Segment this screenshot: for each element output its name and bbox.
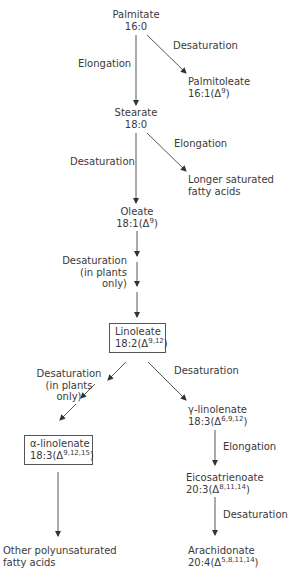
formula-prefix: 18:2(Δ [115,338,148,349]
formula-prefix: 20:3(Δ [186,484,219,495]
formula-prefix: 20:4(Δ [188,557,221,568]
edge-label-linoleate-alpha: Desaturation (in plants only) [36,368,102,403]
linoleate-formula: 18:2(Δ9,12) [115,338,160,350]
arrow-linoleate-alpha-3 [60,404,76,420]
edge-label-line2: (in plants [36,380,102,392]
formula-sup: 8,11,14 [219,483,246,491]
formula-prefix: 18:1(Δ [116,218,149,229]
other-polyunsaturated-line1: Other polyunsaturated [3,545,117,557]
edge-label-palmitate-stearate: Elongation [78,58,131,70]
edge-label-line3: only) [36,391,102,403]
formula-prefix: 16:1(Δ [188,88,221,99]
longer-saturated-line2: fatty acids [188,186,274,198]
node-stearate: Stearate 18:0 [106,107,166,131]
formula-prefix: 18:3(Δ [188,416,221,427]
eicosatrienoate-formula: 20:3(Δ8,11,14) [186,484,264,496]
edge-label-line1: Desaturation [36,368,102,380]
palmitoleate-name: Palmitoleate [188,76,250,88]
node-linoleate: Linoleate 18:2(Δ9,12) [109,323,166,353]
edge-label-linoleate-gamma: Desaturation [174,365,239,377]
stearate-name: Stearate [106,107,166,119]
formula-suffix: ) [246,484,250,495]
palmitate-name: Palmitate [106,9,166,21]
formula-sup: 9,12 [148,337,164,345]
edge-label-line1: Desaturation [62,255,127,267]
formula-suffix: ) [255,557,259,568]
arrow-linoleate-alpha-1 [108,362,126,380]
alpha-linolenate-formula: 18:3(Δ9,12,15) [30,450,87,462]
edge-label-palmitate-palmitoleate: Desaturation [173,40,238,52]
gamma-linolenate-formula: 18:3(Δ6,9,12) [188,416,247,428]
edge-label-stearate-longer: Elongation [174,138,227,150]
formula-suffix: ) [164,338,168,349]
palmitate-formula: 16:0 [106,21,166,33]
node-gamma-linolenate: γ-linolenate 18:3(Δ6,9,12) [188,404,247,428]
formula-suffix: ) [226,88,230,99]
formula-prefix: 18:3(Δ [30,450,63,461]
node-eicosatrienoate: Eicosatrienoate 20:3(Δ8,11,14) [186,472,264,496]
oleate-formula: 18:1(Δ9) [106,218,168,230]
node-palmitate: Palmitate 16:0 [106,9,166,33]
node-oleate: Oleate 18:1(Δ9) [106,206,168,230]
formula-sup: 6,9,12 [221,415,243,423]
palmitoleate-formula: 16:1(Δ9) [188,88,250,100]
edge-label-line3: only) [62,278,127,290]
formula-suffix: ) [243,416,247,427]
edge-label-line2: (in plants [62,267,127,279]
node-alpha-linolenate: α-linolenate 18:3(Δ9,12,15) [24,435,93,465]
longer-saturated-line1: Longer saturated [188,174,274,186]
edge-label-eicosatrienoate-arachidonate: Desaturation [223,509,288,521]
node-other-polyunsaturated: Other polyunsaturated fatty acids [3,545,117,569]
other-polyunsaturated-line2: fatty acids [3,557,117,569]
node-longer-saturated: Longer saturated fatty acids [188,174,274,198]
formula-sup: 5,8,11,14 [221,556,254,564]
edge-label-stearate-oleate: Desaturation [70,156,135,168]
formula-suffix: ) [154,218,158,229]
stearate-formula: 18:0 [106,119,166,131]
node-palmitoleate: Palmitoleate 16:1(Δ9) [188,76,250,100]
edge-label-gamma-eicosatrienoate: Elongation [223,441,276,453]
formula-suffix: ) [90,450,94,461]
oleate-name: Oleate [106,206,168,218]
node-arachidonate: Arachidonate 20:4(Δ5,8,11,14) [188,545,259,569]
edge-label-oleate-linoleate: Desaturation (in plants only) [62,255,127,290]
formula-sup: 9,12,15 [63,449,90,457]
arachidonate-formula: 20:4(Δ5,8,11,14) [188,557,259,569]
